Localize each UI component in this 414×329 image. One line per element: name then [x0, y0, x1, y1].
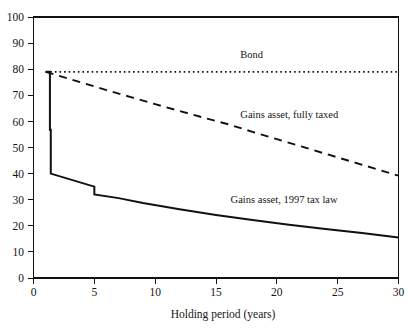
x-tick-label-15: 15	[210, 286, 222, 298]
y-tick-label-50: 50	[13, 142, 25, 154]
series-label-1: Gains asset, fully taxed	[240, 109, 339, 120]
y-tick-label-100: 100	[7, 11, 25, 23]
y-tick-label-20: 20	[13, 220, 25, 232]
y-tick-label-40: 40	[13, 168, 25, 180]
series-label-2: Gains asset, 1997 tax law	[231, 194, 338, 205]
x-tick-label-0: 0	[31, 286, 37, 298]
y-tick-label-0: 0	[18, 272, 24, 284]
x-tick-label-30: 30	[393, 286, 405, 298]
x-tick-label-10: 10	[149, 286, 161, 298]
holding-period-line-chart: 0102030405060708090100 051015202530 Bond…	[0, 0, 414, 329]
chart-container: 0102030405060708090100 051015202530 Bond…	[0, 0, 414, 329]
y-tick-label-10: 10	[13, 246, 25, 258]
y-tick-label-90: 90	[13, 37, 25, 49]
x-tick-label-5: 5	[91, 286, 97, 298]
y-tick-label-30: 30	[13, 194, 25, 206]
y-tick-label-80: 80	[13, 63, 25, 75]
chart-background	[0, 0, 414, 329]
y-tick-label-70: 70	[13, 89, 25, 101]
x-tick-label-25: 25	[332, 286, 344, 298]
series-label-0: Bond	[240, 49, 264, 60]
y-tick-label-60: 60	[13, 116, 25, 128]
x-axis-title: Holding period (years)	[171, 308, 276, 321]
x-tick-label-20: 20	[271, 286, 283, 298]
